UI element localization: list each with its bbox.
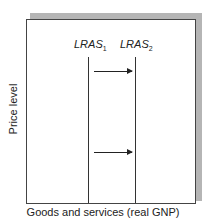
plot-area bbox=[26, 19, 196, 204]
lras2-line bbox=[135, 57, 136, 203]
y-axis-label: Price level bbox=[7, 79, 19, 139]
lras2-label: LRAS2 bbox=[120, 38, 153, 52]
lras1-label: LRAS1 bbox=[74, 38, 107, 52]
x-axis-label: Goods and services (real GNP) bbox=[0, 206, 206, 218]
lras1-line bbox=[88, 57, 89, 203]
shift-arrow-lower bbox=[94, 152, 132, 153]
shift-arrow-upper bbox=[94, 71, 132, 72]
frame-shadow-right bbox=[195, 13, 202, 201]
